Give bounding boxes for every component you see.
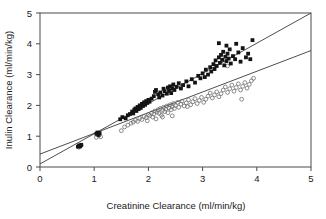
x-tick-label: 3 bbox=[200, 173, 205, 184]
data-point bbox=[206, 73, 210, 77]
y-tick-label: 3 bbox=[27, 69, 32, 80]
data-point bbox=[184, 79, 188, 83]
data-point bbox=[120, 115, 124, 119]
data-point bbox=[229, 62, 233, 66]
data-point bbox=[98, 131, 102, 135]
data-point bbox=[239, 60, 243, 64]
x-tick-label: 2 bbox=[146, 173, 151, 184]
x-tick-label: 1 bbox=[92, 173, 97, 184]
data-point bbox=[215, 64, 219, 68]
x-axis-label: Creatinine Clearance (ml/min/kg) bbox=[107, 200, 246, 211]
data-point bbox=[131, 112, 135, 116]
data-point bbox=[208, 65, 212, 69]
data-point bbox=[222, 63, 226, 67]
data-point bbox=[233, 57, 237, 61]
data-point bbox=[203, 75, 207, 79]
data-point bbox=[217, 41, 221, 45]
data-point bbox=[212, 62, 216, 66]
figure-background bbox=[0, 0, 326, 219]
data-point bbox=[251, 38, 255, 42]
y-tick-label: 1 bbox=[27, 131, 32, 142]
data-point bbox=[193, 81, 197, 85]
data-point bbox=[234, 42, 238, 46]
data-point bbox=[241, 46, 245, 50]
data-point bbox=[204, 68, 208, 72]
y-tick-label: 2 bbox=[27, 100, 32, 111]
data-point bbox=[79, 143, 83, 147]
x-tick-label: 5 bbox=[308, 173, 313, 184]
data-point bbox=[177, 81, 181, 85]
data-point bbox=[179, 87, 183, 91]
data-point bbox=[161, 94, 165, 98]
data-point bbox=[220, 58, 224, 62]
scatter-plot-figure: 012345 012345 Creatinine Clearance (ml/m… bbox=[0, 0, 326, 219]
data-point bbox=[209, 70, 213, 74]
x-tick-label: 0 bbox=[37, 173, 42, 184]
y-axis-label: Inulin Clearance (ml/min/kg) bbox=[3, 31, 14, 149]
data-point bbox=[169, 91, 173, 95]
data-point bbox=[187, 84, 191, 88]
data-point bbox=[175, 85, 179, 89]
data-point bbox=[226, 52, 230, 56]
data-point bbox=[228, 47, 232, 51]
data-point bbox=[214, 59, 218, 63]
y-tick-label: 4 bbox=[27, 38, 32, 49]
data-point bbox=[236, 51, 240, 55]
data-point bbox=[201, 71, 205, 75]
data-point bbox=[171, 83, 175, 87]
data-point bbox=[225, 44, 229, 48]
data-point bbox=[190, 77, 194, 81]
x-tick-label: 4 bbox=[254, 173, 259, 184]
data-point bbox=[244, 55, 248, 59]
data-point bbox=[157, 95, 161, 99]
data-point bbox=[221, 50, 225, 54]
data-point bbox=[154, 88, 158, 92]
y-tick-label: 0 bbox=[27, 162, 32, 173]
y-tick-label: 5 bbox=[27, 8, 32, 19]
data-point bbox=[246, 52, 250, 56]
data-point bbox=[248, 57, 252, 61]
data-point bbox=[227, 57, 231, 61]
data-point bbox=[152, 94, 156, 98]
data-point bbox=[199, 76, 203, 80]
data-point bbox=[181, 83, 185, 87]
